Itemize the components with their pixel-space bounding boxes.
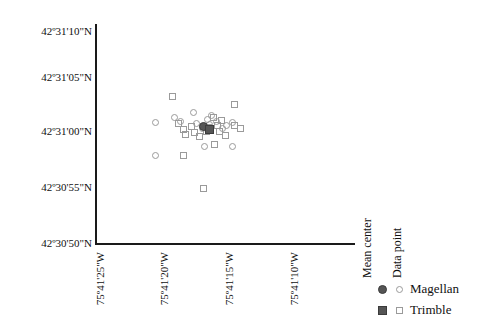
y-tick-1: 42º31'05"N	[0, 72, 92, 84]
legend-header-label: Data point	[390, 228, 404, 278]
data-point-circle-open	[152, 152, 159, 159]
legend-mean-marker-circle-filled-icon	[378, 285, 387, 294]
x-tick-0: 75º41'25"W	[93, 252, 107, 330]
legend-row-trimble: Trimble	[372, 303, 499, 319]
legend-label-trimble: Trimble	[410, 303, 451, 317]
data-point-square-open	[180, 152, 187, 159]
y-tick-3: 42º30'55"N	[0, 182, 92, 194]
x-tick-label: 75º41'25"W	[93, 252, 107, 305]
data-point-square-open	[196, 133, 203, 140]
data-point-square-open	[222, 132, 229, 139]
x-tick-label: 75º41'10"W	[287, 252, 301, 305]
x-tick-label: 75º41'15"W	[222, 252, 236, 305]
x-tick-2: 75º41'15"W	[222, 252, 236, 330]
legend-header-data-point: Data point	[404, 186, 420, 278]
data-point-square-open	[237, 125, 244, 132]
legend-label-magellan: Magellan	[410, 282, 459, 296]
plot-area	[95, 24, 357, 245]
data-point-circle-open	[152, 119, 159, 126]
data-point-circle-open	[229, 143, 236, 150]
scatter-plot-figure: 42º31'10"N 42º31'05"N 42º31'00"N 42º30'5…	[0, 0, 499, 334]
legend-mean-marker-square-filled-icon	[378, 306, 387, 315]
data-point-square-open	[169, 93, 176, 100]
y-tick-label: 42º30'55"N	[4, 182, 92, 193]
y-tick-label: 42º31'00"N	[4, 126, 92, 137]
legend-data-marker-square-open-icon	[396, 307, 403, 314]
y-tick-0: 42º31'10"N	[0, 26, 92, 38]
y-tick-label: 42º31'10"N	[4, 26, 92, 37]
y-tick-4: 42º30'50"N	[0, 238, 92, 250]
data-point-square-open	[211, 141, 218, 148]
data-point-square-filled	[205, 125, 214, 134]
data-point-square-open	[210, 114, 217, 121]
y-tick-2: 42º31'00"N	[0, 126, 92, 138]
x-tick-3: 75º41'10"W	[287, 252, 301, 330]
data-point-circle-open	[201, 143, 208, 150]
legend-row-magellan: Magellan	[372, 282, 499, 298]
y-tick-label: 42º31'05"N	[4, 72, 92, 83]
legend: Mean center Data point Magellan Trimble	[372, 186, 499, 334]
legend-data-marker-circle-open-icon	[396, 286, 403, 293]
y-tick-label: 42º30'50"N	[4, 238, 92, 249]
data-point-circle-open	[190, 109, 197, 116]
legend-header-label: Mean center	[360, 218, 374, 278]
legend-header-mean-center: Mean center	[374, 186, 390, 278]
data-point-square-open	[182, 131, 189, 138]
data-point-square-open	[231, 101, 238, 108]
data-point-square-open	[200, 185, 207, 192]
data-point-square-open	[218, 117, 225, 124]
x-tick-label: 75º41'20"W	[157, 252, 171, 305]
x-tick-1: 75º41'20"W	[157, 252, 171, 330]
